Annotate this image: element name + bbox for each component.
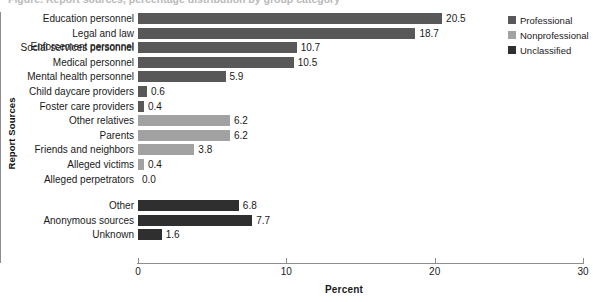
x-axis-tick-label: 0 [135, 266, 141, 278]
bar-row-label: Anonymous sources [0, 214, 134, 228]
bar-value-label: 18.7 [419, 27, 438, 40]
bar-value-label: 0.6 [151, 85, 165, 98]
x-axis-tick-label: 30 [577, 266, 588, 278]
bar [138, 13, 442, 24]
bar [138, 101, 144, 112]
legend-item: Professional [508, 13, 593, 28]
bar [138, 144, 194, 155]
bar-value-label: 0.4 [148, 158, 162, 171]
bar-row: Legal and lawEnforcement personnel18.7 [0, 27, 593, 41]
bar-row: Other relatives6.2 [0, 114, 593, 128]
legend-item: Nonprofessional [508, 28, 593, 43]
bar-value-label: 10.7 [301, 41, 320, 54]
x-axis-tick-mark [286, 258, 287, 264]
bar-row-label: Other relatives [0, 114, 134, 128]
bar-row-label: Foster care providers [0, 100, 134, 114]
x-axis-tick-mark [138, 258, 139, 264]
bar-row: Child daycare providers0.6 [0, 85, 593, 99]
legend-swatch-icon [508, 46, 516, 54]
bar [138, 159, 144, 170]
x-axis-tick-mark [435, 258, 436, 264]
bar-value-label: 7.7 [256, 214, 270, 227]
bar-row-label: Child daycare providers [0, 85, 134, 99]
bar-row: Unknown1.6 [0, 228, 593, 242]
bar-value-label: 6.8 [243, 199, 257, 212]
bar-value-label: 0.0 [142, 173, 156, 186]
x-axis-line [137, 263, 584, 264]
legend-swatch-icon [508, 16, 516, 24]
bar [138, 215, 252, 226]
bar-row-label: Social services personnel [0, 41, 134, 55]
bar-row-label: Friends and neighbors [0, 143, 134, 157]
bar-value-label: 10.5 [298, 56, 317, 69]
bar-row-label: Parents [0, 129, 134, 143]
bar-row: Foster care providers0.4 [0, 100, 593, 114]
legend-label: Nonprofessional [520, 28, 589, 43]
bar-row: Mental health personnel5.9 [0, 70, 593, 84]
bar-row-label: Education personnel [0, 12, 134, 26]
x-axis-tick-mark [583, 258, 584, 264]
bar-row-label: Unknown [0, 228, 134, 242]
bar-value-label: 5.9 [230, 70, 244, 83]
bar-value-label: 20.5 [446, 12, 465, 25]
bar-row: Alleged perpetrators0.0 [0, 173, 593, 187]
bar-value-label: 1.6 [166, 228, 180, 241]
bar-row: Anonymous sources7.7 [0, 214, 593, 228]
bar [138, 86, 147, 97]
bar-row-label: Legal and law [0, 27, 134, 41]
bar [138, 115, 230, 126]
figure-title: Figure. Report sources, percentage distr… [8, 0, 528, 5]
chart-figure: Figure. Report sources, percentage distr… [0, 0, 593, 302]
bar-row: Medical personnel10.5 [0, 56, 593, 70]
bar-row-label: Other [0, 199, 134, 213]
bar [138, 28, 415, 39]
bar-row: Parents6.2 [0, 129, 593, 143]
bar [138, 42, 297, 53]
bar-row: Other6.8 [0, 199, 593, 213]
x-axis-tick-label: 10 [281, 266, 292, 278]
bar-row-label: Alleged perpetrators [0, 173, 134, 187]
bar [138, 57, 294, 68]
bar-value-label: 6.2 [234, 129, 248, 142]
bar-row: Social services personnel10.7 [0, 41, 593, 55]
bar [138, 71, 226, 82]
legend-swatch-icon [508, 31, 516, 39]
bar-value-label: 6.2 [234, 114, 248, 127]
x-axis-tick-label: 20 [429, 266, 440, 278]
bar [138, 229, 162, 240]
legend-label: Professional [520, 13, 572, 28]
bar-value-label: 0.4 [148, 100, 162, 113]
bar-row-label: Mental health personnel [0, 70, 134, 84]
legend-label: Unclassified [520, 43, 571, 58]
chart-legend: ProfessionalNonprofessionalUnclassified [508, 13, 593, 58]
bar [138, 200, 239, 211]
bar-value-label: 3.8 [198, 143, 212, 156]
legend-item: Unclassified [508, 43, 593, 58]
bar-row: Education personnel20.5 [0, 12, 593, 26]
bar-row: Friends and neighbors3.8 [0, 143, 593, 157]
bar-row-label: Medical personnel [0, 56, 134, 70]
bar [138, 130, 230, 141]
x-axis-title: Percent [0, 284, 593, 295]
bar-row: Alleged victims0.4 [0, 158, 593, 172]
bar-row-label: Alleged victims [0, 158, 134, 172]
